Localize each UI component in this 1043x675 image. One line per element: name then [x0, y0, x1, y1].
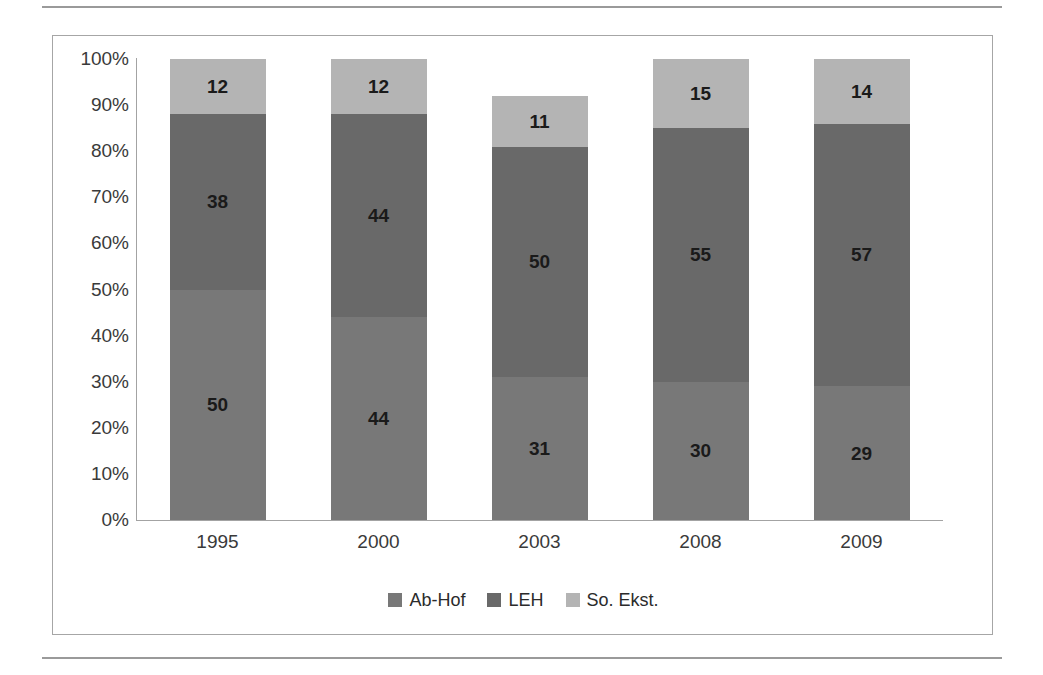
bar-segment[interactable]: 12: [331, 59, 427, 114]
y-axis-tick: 90%: [59, 95, 129, 114]
legend-label: LEH: [508, 591, 543, 609]
legend-label: Ab-Hof: [409, 591, 465, 609]
bar-segment-label: 12: [207, 77, 228, 96]
x-axis-tick: 2000: [309, 531, 449, 553]
bar-segment[interactable]: 55: [653, 128, 749, 382]
x-axis-tick: 2008: [631, 531, 771, 553]
y-axis-tick: 0%: [59, 510, 129, 529]
bar-segment-label: 14: [851, 82, 872, 101]
x-axis-tick: 2003: [470, 531, 610, 553]
bar-segment-label: 50: [529, 252, 550, 271]
legend-swatch-icon: [487, 593, 501, 607]
figure-page: 100%90%80%70%60%50%40%30%20%10%0% 503812…: [0, 0, 1043, 675]
y-axis-tick: 40%: [59, 326, 129, 345]
bar-segment-label: 12: [368, 77, 389, 96]
y-axis-tick: 50%: [59, 280, 129, 299]
bar-segment[interactable]: 30: [653, 382, 749, 520]
bar-segment[interactable]: 14: [814, 59, 910, 124]
legend-swatch-icon: [566, 593, 580, 607]
bar-stack: 444412: [331, 59, 427, 520]
bar-stack: 315011: [492, 59, 588, 520]
bar-segment-label: 29: [851, 444, 872, 463]
page-rule-top: [42, 6, 1002, 8]
bar-stack: 295714: [814, 59, 910, 520]
bar-segment-label: 57: [851, 245, 872, 264]
bar-group: 315011: [492, 59, 588, 520]
plot-area: 503812444412315011305515295714: [137, 59, 942, 520]
x-axis-tick: 2009: [792, 531, 932, 553]
bar-segment[interactable]: 11: [492, 96, 588, 147]
chart-frame: 100%90%80%70%60%50%40%30%20%10%0% 503812…: [52, 35, 993, 635]
bar-group: 305515: [653, 59, 749, 520]
bar-segment-label: 55: [690, 245, 711, 264]
legend-item[interactable]: LEH: [487, 591, 543, 609]
chart-legend: Ab-HofLEHSo. Ekst.: [53, 591, 994, 609]
bar-group: 295714: [814, 59, 910, 520]
y-axis-tick: 20%: [59, 418, 129, 437]
bar-group: 503812: [170, 59, 266, 520]
bar-segment[interactable]: 38: [170, 114, 266, 289]
y-axis-tick: 100%: [59, 49, 129, 68]
bar-segment[interactable]: 44: [331, 317, 427, 520]
bar-stack: 503812: [170, 59, 266, 520]
bar-segment-label: 50: [207, 395, 228, 414]
legend-item[interactable]: Ab-Hof: [388, 591, 465, 609]
bar-segment-label: 30: [690, 441, 711, 460]
x-axis-tick: 1995: [148, 531, 288, 553]
y-axis-tick: 30%: [59, 372, 129, 391]
legend-label: So. Ekst.: [587, 591, 659, 609]
y-axis-tick-labels: 100%90%80%70%60%50%40%30%20%10%0%: [53, 59, 129, 520]
bar-segment[interactable]: 15: [653, 59, 749, 128]
bar-segment[interactable]: 50: [170, 290, 266, 521]
y-axis-tick: 60%: [59, 233, 129, 252]
bar-segment-label: 44: [368, 409, 389, 428]
bar-segment[interactable]: 12: [170, 59, 266, 114]
bar-segment-label: 31: [529, 439, 550, 458]
y-axis-tick: 70%: [59, 187, 129, 206]
bar-segment-label: 38: [207, 192, 228, 211]
bar-segment-label: 44: [368, 206, 389, 225]
y-axis-tick: 10%: [59, 464, 129, 483]
bar-group: 444412: [331, 59, 427, 520]
legend-item[interactable]: So. Ekst.: [566, 591, 659, 609]
bar-stack: 305515: [653, 59, 749, 520]
bar-segment[interactable]: 57: [814, 124, 910, 387]
bar-segment-label: 11: [529, 112, 549, 131]
x-axis-line: [136, 520, 943, 521]
x-axis-tick-labels: 19952000200320082009: [137, 531, 942, 561]
bar-segment[interactable]: 44: [331, 114, 427, 317]
bar-segment[interactable]: 29: [814, 386, 910, 520]
y-axis-tick: 80%: [59, 141, 129, 160]
bar-segment[interactable]: 50: [492, 147, 588, 378]
bar-segment[interactable]: 31: [492, 377, 588, 520]
page-rule-bottom: [42, 657, 1002, 659]
legend-swatch-icon: [388, 593, 402, 607]
bar-segment-label: 15: [690, 84, 711, 103]
